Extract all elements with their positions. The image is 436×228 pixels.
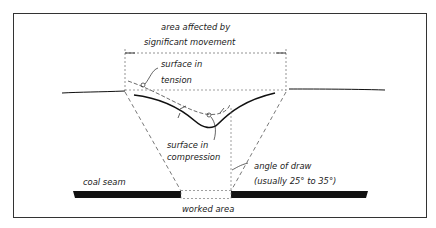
tension-leader xyxy=(141,68,158,87)
label-surface-tension-2: tension xyxy=(161,75,192,85)
label-surface-compression-2: compression xyxy=(167,152,220,162)
worked-area-box xyxy=(181,191,231,199)
label-angle-of-draw-2: (usually 25° to 35°) xyxy=(254,176,336,186)
label-angle-of-draw-1: angle of draw xyxy=(254,161,312,171)
subsidence-diagram: area affected by significant movement su… xyxy=(0,0,436,228)
label-coal-seam: coal seam xyxy=(83,177,126,187)
label-surface-compression-1: surface in xyxy=(167,140,208,150)
label-worked-area: worked area xyxy=(182,204,234,214)
label-area-affected-1: area affected by xyxy=(161,22,231,32)
label-surface-tension-1: surface in xyxy=(161,59,202,69)
ground-surface xyxy=(62,89,385,93)
coal-seam xyxy=(73,191,368,198)
subsidence-trough xyxy=(134,93,275,128)
label-area-affected-2: significant movement xyxy=(144,37,236,47)
affected-area-dimension xyxy=(125,49,286,91)
